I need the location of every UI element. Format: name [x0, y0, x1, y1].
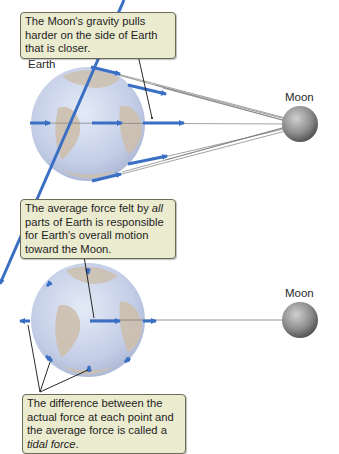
avg-text-post: parts of Earth is responsible for Earth'… — [25, 216, 164, 255]
avg-text-em: all — [152, 202, 163, 214]
tidal-text-post: . — [76, 438, 79, 450]
bottom-moon-label: Moon — [285, 287, 314, 299]
tidal-text-pre: The difference between the actual force … — [27, 397, 174, 436]
earth-label: Earth — [28, 58, 56, 70]
avg-text-pre: The average force felt by — [25, 202, 152, 214]
tidal-force-callout: The difference between the actual force … — [22, 394, 186, 454]
average-force-callout: The average force felt by all parts of E… — [20, 199, 176, 259]
top-moon-label: Moon — [285, 91, 314, 103]
top-moon — [282, 106, 318, 142]
top-callout: The Moon's gravity pulls harder on the s… — [20, 12, 176, 59]
tidal-text-em: tidal force — [27, 438, 76, 450]
bottom-moon — [282, 302, 318, 338]
